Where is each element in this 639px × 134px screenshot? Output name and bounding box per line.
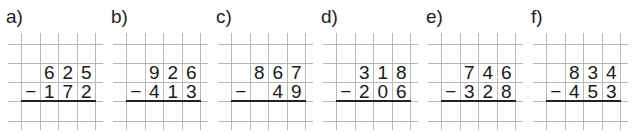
minuend-digit-tens: 4	[479, 63, 498, 82]
subtrahend-digit-ones: 3	[602, 82, 621, 101]
subtrahend-digit-hundreds: 4	[145, 82, 164, 101]
exercise-label: e)	[426, 6, 443, 28]
subtrahend-digit-ones: 3	[182, 82, 201, 101]
grid-line	[8, 121, 103, 122]
exercise-panel-c: c) 8 6 7 − 4 9	[210, 0, 315, 134]
subtrahend-digit-ones: 2	[77, 82, 96, 101]
minuend-digit-ones: 7	[287, 63, 306, 82]
grid-line	[428, 121, 523, 122]
grid-line	[218, 121, 313, 122]
minus-sign: −	[22, 82, 41, 101]
grid-line	[218, 44, 313, 45]
exercise-label: d)	[321, 6, 338, 28]
minuend-digit-ones: 8	[392, 63, 411, 82]
calculation-grid: 9 2 6 − 4 1 3	[113, 33, 210, 131]
subtrahend-digit-hundreds: 1	[40, 82, 59, 101]
exercise-label: b)	[111, 6, 128, 28]
minuend-digit-tens: 1	[374, 63, 393, 82]
grid-line	[533, 121, 628, 122]
subtrahend-digit-tens: 4	[269, 82, 288, 101]
minuend-digit-hundreds: 8	[250, 63, 269, 82]
grid-line	[113, 121, 208, 122]
minuend-digit-ones: 4	[602, 63, 621, 82]
subtrahend-digit-hundreds: 4	[565, 82, 584, 101]
subtrahend-digit-hundreds: 2	[355, 82, 374, 101]
subtrahend-digit-hundreds: 3	[460, 82, 479, 101]
subtrahend-digit-tens: 1	[164, 82, 183, 101]
minuend-digit-hundreds: 6	[40, 63, 59, 82]
calculation-grid: 8 6 7 − 4 9	[218, 33, 315, 131]
minuend-digit-tens: 2	[59, 63, 78, 82]
exercise-panel-e: e) 7 4 6 − 3 2 8	[420, 0, 525, 134]
calculation-grid: 7 4 6 − 3 2 8	[428, 33, 525, 131]
minus-sign: −	[337, 82, 356, 101]
subtrahend-digit-tens: 5	[584, 82, 603, 101]
minuend-digit-tens: 6	[269, 63, 288, 82]
grid-line	[113, 44, 208, 45]
exercise-panel-a: a) 6 2 5 − 1 7 2	[0, 0, 105, 134]
minuend-digit-hundreds: 9	[145, 63, 164, 82]
exercise-label: a)	[6, 6, 23, 28]
exercise-panel-d: d) 3 1 8 − 2 0 6	[315, 0, 420, 134]
calculation-grid: 8 3 4 − 4 5 3	[533, 33, 630, 131]
exercise-panel-f: f) 8 3 4 − 4 5 3	[525, 0, 630, 134]
minuend-digit-tens: 3	[584, 63, 603, 82]
minuend-digit-ones: 6	[182, 63, 201, 82]
minuend-digit-hundreds: 3	[355, 63, 374, 82]
subtrahend-digit-tens: 0	[374, 82, 393, 101]
grid-line	[323, 44, 418, 45]
minus-sign: −	[442, 82, 461, 101]
grid-line	[323, 121, 418, 122]
exercise-label: c)	[216, 6, 232, 28]
subtrahend-digit-hundreds	[250, 82, 269, 101]
grid-line	[8, 44, 103, 45]
subtrahend-digit-ones: 6	[392, 82, 411, 101]
exercise-label: f)	[531, 6, 543, 28]
minus-sign: −	[232, 82, 251, 101]
calculation-grid: 6 2 5 − 1 7 2	[8, 33, 105, 131]
minuend-digit-ones: 6	[497, 63, 516, 82]
calculation-grid: 3 1 8 − 2 0 6	[323, 33, 420, 131]
subtrahend-digit-ones: 8	[497, 82, 516, 101]
exercise-panel-b: b) 9 2 6 − 4 1 3	[105, 0, 210, 134]
minuend-digit-hundreds: 8	[565, 63, 584, 82]
subtrahend-digit-tens: 2	[479, 82, 498, 101]
minuend-digit-tens: 2	[164, 63, 183, 82]
subtrahend-digit-ones: 9	[287, 82, 306, 101]
minus-sign: −	[127, 82, 146, 101]
grid-line	[428, 44, 523, 45]
minuend-digit-hundreds: 7	[460, 63, 479, 82]
minuend-digit-ones: 5	[77, 63, 96, 82]
minus-sign: −	[547, 82, 566, 101]
grid-line	[533, 44, 628, 45]
subtrahend-digit-tens: 7	[59, 82, 78, 101]
